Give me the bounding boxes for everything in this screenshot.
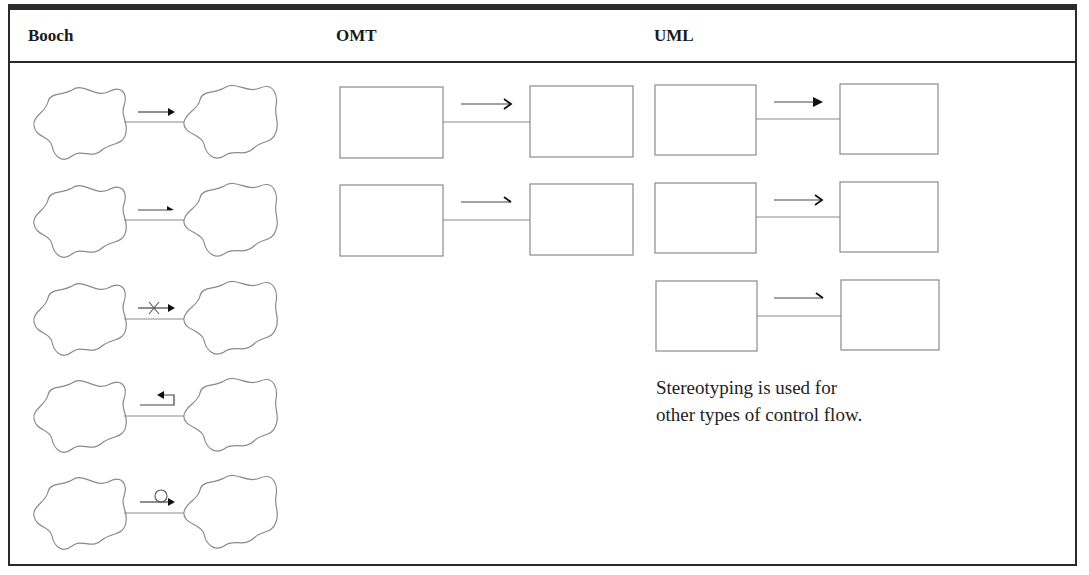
uml-row-1	[655, 84, 938, 155]
class-cloud-icon	[184, 281, 278, 354]
class-box	[340, 185, 443, 256]
class-box	[656, 281, 757, 351]
booch-row-4	[34, 378, 278, 452]
notation-diagram	[0, 0, 1089, 575]
class-cloud-icon	[34, 186, 127, 258]
class-cloud-icon	[34, 381, 127, 453]
filled-arrow-icon	[813, 97, 823, 107]
booch-row-5	[34, 475, 278, 549]
class-cloud-icon	[34, 284, 127, 356]
circle-icon	[155, 490, 167, 502]
return-arrow-icon	[157, 391, 164, 399]
filled-arrow-icon	[168, 304, 175, 312]
class-cloud-icon	[184, 475, 278, 548]
class-box	[530, 86, 633, 157]
half-arrow-icon	[167, 206, 174, 210]
half-arrow-icon	[504, 197, 511, 202]
class-box	[840, 84, 938, 154]
class-box	[655, 85, 756, 155]
class-cloud-icon	[34, 478, 127, 550]
class-box	[840, 182, 938, 252]
omt-row-2	[340, 184, 633, 256]
class-cloud-icon	[184, 378, 278, 451]
uml-stereotype-note: Stereotyping is used for other types of …	[656, 374, 862, 428]
booch-row-2	[34, 183, 278, 257]
uml-row-3	[656, 280, 939, 351]
class-cloud-icon	[184, 183, 278, 256]
filled-arrow-icon	[168, 498, 175, 506]
class-box	[655, 183, 756, 253]
booch-row-1	[34, 85, 278, 159]
class-cloud-icon	[34, 88, 127, 160]
booch-row-3	[34, 281, 278, 355]
filled-arrow-icon	[168, 108, 175, 116]
half-arrow-icon	[816, 293, 823, 298]
class-box	[841, 280, 939, 350]
class-box	[530, 184, 633, 255]
class-cloud-icon	[184, 85, 278, 158]
note-line-2: other types of control flow.	[656, 401, 862, 428]
note-line-1: Stereotyping is used for	[656, 374, 862, 401]
class-box	[340, 87, 443, 158]
omt-row-1	[340, 86, 633, 158]
uml-row-2	[655, 182, 938, 253]
